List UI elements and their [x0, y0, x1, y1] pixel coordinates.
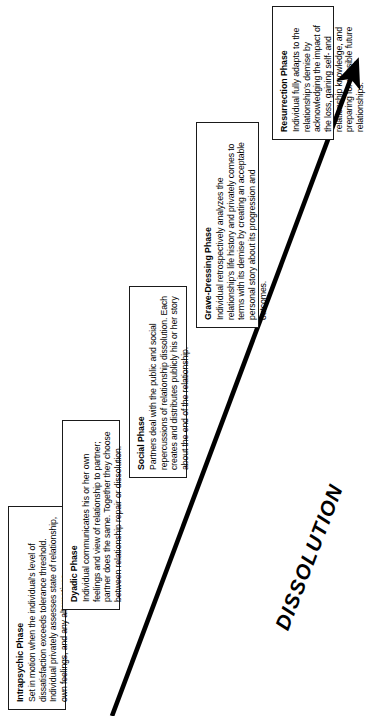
- phase-box-dyadic: Dyadic Phase Individual communicates his…: [62, 420, 120, 610]
- phase-box-social: Social Phase Partners deal with the publ…: [129, 286, 187, 478]
- phase-body-dyadic: Individual communicates his or her own f…: [81, 428, 124, 602]
- phase-box-resurrection: Resurrection Phase Individual fully adap…: [272, 6, 334, 140]
- phase-title-resurrection: Resurrection Phase: [279, 14, 290, 132]
- phase-body-resurrection: Individual fully adapts to the relations…: [291, 14, 366, 132]
- dissolution-label: DISSOLUTION: [270, 481, 348, 634]
- phase-body-social: Partners deal with the public and social…: [148, 294, 191, 470]
- phase-box-grave-dressing: Grave-Dressing Phase Individual retrospe…: [196, 122, 259, 328]
- phase-title-grave-dressing: Grave-Dressing Phase: [203, 130, 214, 320]
- phase-title-dyadic: Dyadic Phase: [69, 428, 80, 602]
- phase-box-intrapsychic: Intrapsychic Phase Set in motion when th…: [8, 506, 66, 710]
- phase-title-social: Social Phase: [136, 294, 147, 470]
- phase-body-grave-dressing: Individual retrospectively analyzes the …: [215, 130, 269, 320]
- phase-title-intrapsychic: Intrapsychic Phase: [15, 514, 26, 702]
